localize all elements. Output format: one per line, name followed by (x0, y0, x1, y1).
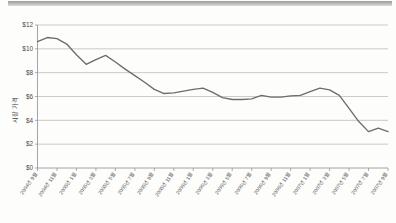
x-tick-label: 2005년 5월 (97, 171, 117, 196)
x-tick-label: 2007년 5월 (330, 171, 350, 196)
x-tick-label: 2006년 9월 (252, 171, 272, 196)
x-tick-marks (38, 168, 389, 171)
y-tick-label: $6 (26, 93, 34, 100)
x-tick-label: 2004년 11월 (37, 171, 59, 198)
x-tick-label: 2005년 7월 (116, 171, 136, 196)
x-tick-label: 2007년 1월 (291, 171, 311, 196)
x-tick-label: 2004년 9월 (19, 171, 39, 196)
x-tick-label: 2006년 3월 (194, 171, 214, 196)
line-chart: $0$2$4$6$8$10$12 2004년 9월2004년 11월2005년 … (0, 0, 396, 223)
gridlines (38, 25, 389, 144)
x-tick-labels: 2004년 9월2004년 11월2005년 1월2005년 3월2005년 5… (19, 171, 390, 198)
y-tick-labels: $0$2$4$6$8$10$12 (22, 21, 37, 171)
data-series-group (38, 38, 389, 132)
x-tick-label: 2007년 7월 (350, 171, 370, 196)
y-tick-label: $4 (26, 117, 34, 124)
x-tick-label: 2006년 11월 (270, 171, 292, 198)
x-tick-label: 2006년 5월 (213, 171, 233, 196)
x-tick-label: 2006년 7월 (233, 171, 253, 196)
plot-area-wrapper: $0$2$4$6$8$10$12 2004년 9월2004년 11월2005년 … (0, 0, 396, 223)
y-tick-label: $12 (22, 21, 33, 28)
y-tick-label: $0 (26, 164, 34, 171)
x-tick-label: 2007년 9월 (369, 171, 389, 196)
chart-container: $0$2$4$6$8$10$12 2004년 9월2004년 11월2005년 … (0, 0, 396, 223)
y-tick-label: $2 (26, 140, 34, 147)
data-line-market-price (38, 38, 389, 132)
y-axis-title: 시장 가격 (11, 97, 19, 123)
y-axis-title-label: 시장 가격 (11, 97, 19, 123)
x-tick-label: 2005년 3월 (77, 171, 97, 196)
x-tick-label: 2005년 9월 (136, 171, 156, 196)
x-tick-label: 2005년 11월 (154, 171, 176, 198)
x-tick-label: 2005년 1월 (58, 171, 78, 196)
y-tick-label: $10 (22, 45, 33, 52)
y-tick-label: $8 (26, 69, 34, 76)
x-tick-label: 2006년 1월 (175, 171, 195, 196)
x-tick-label: 2007년 3월 (311, 171, 331, 196)
